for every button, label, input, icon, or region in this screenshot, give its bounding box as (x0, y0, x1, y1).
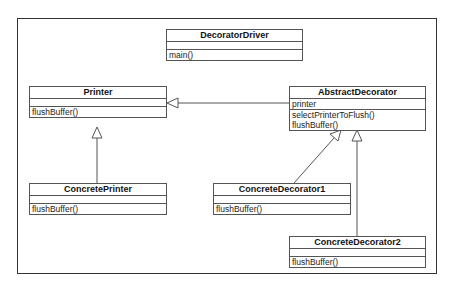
class-method: flushBuffer() (290, 120, 425, 130)
class-name: ConcreteDecorator2 (290, 237, 425, 249)
class-method: main() (167, 50, 302, 60)
class-concrete-decorator1[interactable]: ConcreteDecorator1 flushBuffer() (213, 183, 351, 215)
class-abstract-decorator[interactable]: AbstractDecorator printer selectPrinterT… (289, 86, 426, 131)
class-name: Printer (30, 87, 166, 99)
class-concrete-printer[interactable]: ConcretePrinter flushBuffer() (29, 183, 167, 215)
class-name: DecoratorDriver (167, 30, 302, 42)
generalization-arrowhead-icon (330, 130, 341, 141)
class-name: ConcretePrinter (30, 184, 166, 196)
class-name: ConcreteDecorator1 (214, 184, 350, 196)
class-method: flushBuffer() (30, 107, 166, 117)
class-attributes: printer (290, 99, 425, 110)
class-method: flushBuffer() (214, 204, 350, 214)
class-method: flushBuffer() (290, 257, 425, 267)
class-attributes (30, 196, 166, 204)
generalization-arrowhead-icon (352, 130, 362, 141)
class-method: selectPrinterToFlush() (290, 110, 425, 120)
class-attributes (167, 42, 302, 50)
generalization-arrowhead-icon (92, 127, 102, 138)
class-decorator-driver[interactable]: DecoratorDriver main() (166, 29, 303, 61)
class-attributes (214, 196, 350, 204)
class-concrete-decorator2[interactable]: ConcreteDecorator2 flushBuffer() (289, 236, 426, 268)
class-attributes (290, 249, 425, 257)
class-attributes (30, 99, 166, 107)
link-concretedecorator1-abstractdecorator (294, 138, 334, 183)
generalization-arrowhead-icon (167, 98, 178, 108)
class-name: AbstractDecorator (290, 87, 425, 99)
class-printer[interactable]: Printer flushBuffer() (29, 86, 167, 118)
class-method: flushBuffer() (30, 204, 166, 214)
class-attribute: printer (290, 99, 425, 109)
